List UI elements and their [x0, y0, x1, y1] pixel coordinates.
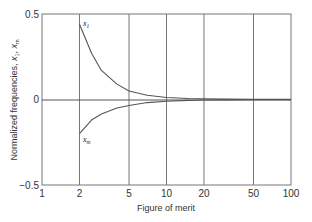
x-tick-label: 10: [161, 188, 173, 199]
series-label-x1: x1: [82, 19, 90, 29]
x-tick-label: 1: [39, 188, 45, 199]
series-label-xm: xm: [82, 135, 91, 145]
y-tick-label: 0.5: [25, 9, 39, 20]
x-tick-label: 50: [248, 188, 260, 199]
y-axis-title: Normalized frequencies, x1, xm: [9, 39, 20, 161]
x-tick-labels: 125102050100: [39, 188, 300, 199]
x-tick-label: 100: [283, 188, 300, 199]
x-tick-label: 5: [126, 188, 132, 199]
series-line-x1: [79, 24, 291, 99]
x-tick-label: 2: [77, 188, 83, 199]
y-tick-label: −0.5: [19, 180, 39, 191]
x-axis-title: Figure of merit: [137, 203, 196, 213]
x-tick-label: 20: [198, 188, 210, 199]
y-tick-labels: 0.50−0.5: [19, 9, 39, 191]
y-tick-label: 0: [33, 94, 39, 105]
series-line-xm: [79, 100, 291, 134]
chart: 125102050100 0.50−0.5 Figure of merit No…: [0, 0, 312, 222]
series-lines: [79, 24, 291, 133]
